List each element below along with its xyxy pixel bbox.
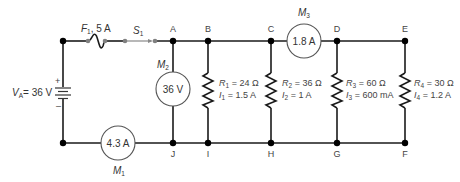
node-d: [334, 38, 340, 44]
node-b: [205, 38, 211, 44]
node-label-c: C: [268, 24, 275, 34]
node-g: [334, 140, 340, 146]
source-label: VA= 36 V: [12, 87, 53, 99]
battery-plus-sign: +: [55, 76, 60, 86]
node-label-e: E: [402, 24, 408, 34]
ammeter-m1-reading: 4.3 A: [107, 138, 130, 149]
node-label-j: J: [171, 149, 176, 159]
r2-current-label: I2 = 1 A: [282, 90, 311, 101]
fuse-label: F1, 5 A: [81, 23, 111, 35]
r3-resistance-label: R3 = 60 Ω: [346, 78, 386, 89]
junction-top-left: [60, 38, 66, 44]
resistor-r1-icon: [203, 73, 213, 108]
junction-bottom-left: [60, 140, 66, 146]
ammeter-m3-reading: 1.8 A: [293, 36, 316, 47]
voltmeter-m2-reading: 36 V: [163, 84, 184, 95]
resistor-r3-icon: [332, 73, 342, 108]
ammeter-m1-label: M1: [113, 165, 125, 177]
r2-resistance-label: R2 = 36 Ω: [282, 78, 322, 89]
switch-label: S1: [133, 25, 144, 37]
node-label-a: A: [170, 24, 176, 34]
node-c: [268, 38, 274, 44]
node-i: [205, 140, 211, 146]
ammeter-m3-label: M3: [298, 7, 310, 19]
resistor-r2-icon: [266, 73, 276, 108]
node-label-b: B: [205, 24, 211, 34]
circuit-diagram: + – VA= 36 V F1, 5 A S1 4.3 A M1 36 V M2…: [0, 0, 460, 182]
switch-icon[interactable]: [123, 39, 158, 44]
node-label-h: H: [268, 149, 275, 159]
node-e: [402, 38, 408, 44]
r1-resistance-label: R1 = 24 Ω: [219, 78, 259, 89]
r1-current-label: I1 = 1.5 A: [219, 90, 256, 101]
node-a: [170, 38, 176, 44]
node-f: [402, 140, 408, 146]
resistor-r4-icon: [400, 73, 410, 108]
battery-icon: [55, 88, 71, 99]
node-label-f: F: [402, 149, 408, 159]
node-label-d: D: [334, 24, 341, 34]
fuse-icon: [88, 34, 105, 48]
r3-current-label: I3 = 600 mA: [346, 90, 393, 101]
r4-current-label: I4 = 1.2 A: [414, 90, 451, 101]
fuse-contact-right: [103, 39, 108, 44]
node-j: [170, 140, 176, 146]
voltmeter-m2-label: M2: [157, 59, 169, 71]
fuse-contact-left: [86, 39, 91, 44]
battery-minus-sign: –: [56, 101, 61, 111]
node-label-i: I: [207, 149, 210, 159]
r4-resistance-label: R4 = 30 Ω: [414, 78, 454, 89]
node-h: [268, 140, 274, 146]
node-label-g: G: [333, 149, 340, 159]
